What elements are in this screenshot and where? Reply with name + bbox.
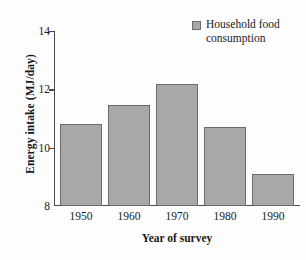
y-axis-title: Energy intake (MJ/day) bbox=[24, 14, 36, 214]
legend: Household food consumption bbox=[192, 18, 306, 45]
bar-1980[interactable] bbox=[204, 127, 246, 206]
bar-1990[interactable] bbox=[252, 174, 294, 206]
x-tick-label-1970: 1970 bbox=[166, 210, 189, 222]
x-tick-label-1960: 1960 bbox=[118, 210, 141, 222]
legend-swatch-icon bbox=[192, 21, 201, 30]
x-tick-label-1950: 1950 bbox=[70, 210, 93, 222]
bar-chart: Energy intake (MJ/day) 14 12 10 8 bbox=[0, 0, 306, 260]
plot-area: 14 12 10 8 1950 1960 1970 1980 1990 bbox=[54, 31, 300, 206]
x-axis-title: Year of survey bbox=[54, 232, 300, 244]
bar-1970[interactable] bbox=[156, 84, 198, 207]
bars-layer bbox=[54, 31, 300, 206]
legend-label-household-food-consumption: Household food consumption bbox=[206, 18, 306, 45]
y-tick-label: 14 bbox=[39, 25, 51, 37]
x-tick-label-1990: 1990 bbox=[262, 210, 285, 222]
y-tick-label: 10 bbox=[39, 142, 51, 154]
bar-1950[interactable] bbox=[60, 124, 102, 206]
x-tick-label-1980: 1980 bbox=[214, 210, 237, 222]
bar-1960[interactable] bbox=[108, 105, 150, 206]
y-tick-label: 8 bbox=[44, 200, 50, 212]
y-tick-label: 12 bbox=[39, 83, 51, 95]
